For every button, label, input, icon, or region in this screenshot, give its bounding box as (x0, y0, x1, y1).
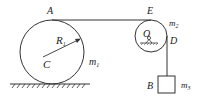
cylinder-m1 (20, 20, 84, 84)
label-R1: R1 (55, 34, 66, 47)
label-E: E (146, 5, 153, 16)
label-C: C (43, 58, 51, 70)
label-m2: m2 (169, 18, 179, 29)
label-D: D (169, 35, 178, 46)
label-O: O (143, 28, 150, 39)
label-m1: m1 (89, 56, 99, 68)
ground (10, 84, 90, 88)
mechanics-diagram: A E D B C O R1 m1 m2 m3 (0, 0, 204, 102)
label-B: B (147, 80, 153, 91)
label-m3: m3 (181, 80, 191, 91)
block-m3 (158, 76, 175, 93)
pulley-m2 (135, 20, 167, 52)
label-A: A (46, 5, 54, 16)
